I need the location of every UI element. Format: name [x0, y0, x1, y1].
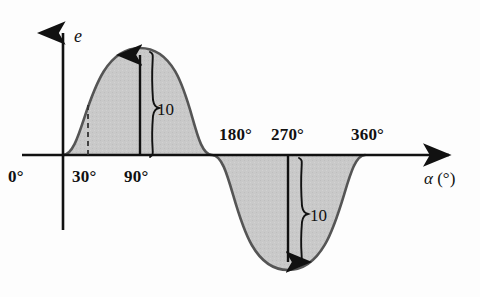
plot-canvas — [0, 0, 480, 297]
x-tick-label-180: 180° — [219, 126, 252, 143]
x-tick-label-270: 270° — [271, 126, 304, 143]
x-tick-label-30: 30° — [72, 168, 96, 185]
amplitude-label-bottom: 10 — [310, 207, 327, 224]
positive-lobe-fill — [63, 48, 212, 155]
x-tick-label-90: 90° — [124, 168, 148, 185]
x-axis-title-symbol: α — [424, 169, 433, 188]
x-tick-label-0: 0° — [8, 168, 24, 185]
amplitude-label-top: 10 — [157, 101, 174, 118]
x-axis-title-unit: (°) — [437, 169, 455, 188]
x-axis-title: α (°) — [424, 170, 455, 187]
sine-wave-figure: 0° 30° 90° 180° 270° 360° e α (°) 10 10 — [0, 0, 480, 297]
y-axis-title: e — [74, 27, 82, 45]
x-tick-label-360: 360° — [351, 126, 384, 143]
